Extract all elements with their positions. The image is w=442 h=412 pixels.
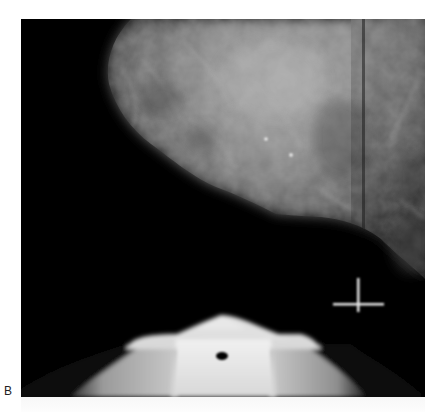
figure-bottom-margin: [21, 397, 425, 412]
paddle-hole: [216, 352, 228, 360]
mammogram-graphic: [21, 19, 425, 397]
calcification-dot: [264, 137, 267, 140]
mammogram-image: [21, 19, 425, 397]
panel-label: B: [4, 385, 12, 397]
calcification-dot: [289, 153, 293, 157]
